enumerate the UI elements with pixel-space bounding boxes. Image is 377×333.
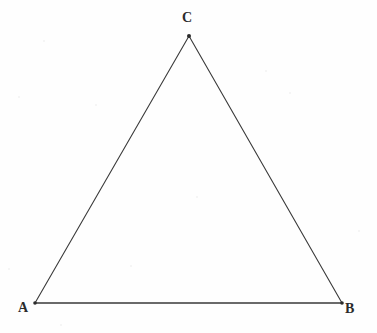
- scan-speck: [43, 40, 45, 42]
- scan-speck: [60, 324, 62, 326]
- triangle-vertices: [33, 34, 344, 305]
- vertex-b-point: [340, 301, 344, 305]
- vertex-c-point: [187, 34, 191, 38]
- scan-speck: [8, 268, 10, 270]
- scan-speck: [358, 230, 360, 232]
- scan-speck: [95, 104, 97, 106]
- vertex-label-b: B: [345, 302, 354, 316]
- scan-speck: [130, 265, 132, 267]
- vertex-a-point: [33, 301, 37, 305]
- scan-speck: [196, 196, 198, 198]
- triangle-figure: A B C: [0, 0, 377, 333]
- triangle-drawing-canvas: [0, 0, 377, 333]
- edge-bc-line: [189, 36, 342, 303]
- scan-speck: [265, 70, 267, 72]
- edge-ca-line: [35, 36, 189, 303]
- triangle-edges: [35, 36, 342, 303]
- scan-speck: [18, 96, 20, 98]
- scan-speck: [289, 92, 291, 94]
- vertex-label-c: C: [182, 11, 192, 25]
- vertex-label-a: A: [18, 301, 28, 315]
